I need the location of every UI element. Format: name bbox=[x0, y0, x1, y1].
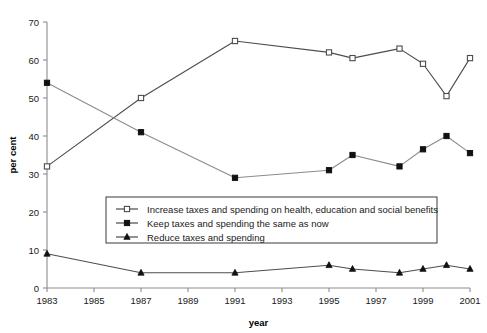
series-line-1 bbox=[47, 41, 470, 166]
y-tick-label: 0 bbox=[34, 283, 39, 294]
data-point-filled-square bbox=[232, 175, 237, 180]
data-point-open-square bbox=[124, 206, 129, 211]
data-point-filled-square bbox=[350, 152, 355, 157]
y-tick-label: 30 bbox=[28, 169, 39, 180]
line-chart: 010203040506070 198319851987198919911993… bbox=[0, 0, 487, 333]
series-2 bbox=[44, 80, 472, 180]
data-point-open-square bbox=[138, 95, 143, 100]
data-point-open-square bbox=[326, 50, 331, 55]
data-point-open-square bbox=[232, 38, 237, 43]
data-point-open-square bbox=[444, 94, 449, 99]
y-tick-label: 40 bbox=[28, 131, 39, 142]
series-line-2 bbox=[47, 83, 470, 178]
y-axis-title: per cent bbox=[7, 136, 18, 174]
chart-canvas: 010203040506070 198319851987198919911993… bbox=[0, 0, 487, 333]
legend-item-label: Keep taxes and spending the same as now bbox=[147, 218, 329, 229]
chart-legend: Increase taxes and spending on health, e… bbox=[106, 197, 438, 243]
data-point-filled-square bbox=[138, 130, 143, 135]
data-point-filled-triangle bbox=[443, 262, 449, 268]
x-tick-label: 1993 bbox=[271, 295, 292, 306]
y-axis: 010203040506070 bbox=[28, 17, 47, 294]
data-point-filled-square bbox=[420, 147, 425, 152]
data-point-filled-square bbox=[467, 151, 472, 156]
x-tick-label: 1987 bbox=[130, 295, 151, 306]
y-tick-label: 10 bbox=[28, 245, 39, 256]
y-tick-label: 20 bbox=[28, 207, 39, 218]
data-point-filled-square bbox=[124, 220, 129, 225]
series-1 bbox=[44, 38, 472, 169]
series-line-3 bbox=[47, 254, 470, 273]
x-tick-label: 1997 bbox=[365, 295, 386, 306]
x-tick-label: 1995 bbox=[318, 295, 339, 306]
legend-item-2[interactable]: Keep taxes and spending the same as now bbox=[116, 218, 329, 229]
data-point-filled-square bbox=[444, 133, 449, 138]
x-tick-label: 1985 bbox=[83, 295, 104, 306]
x-tick-label: 1989 bbox=[177, 295, 198, 306]
series-3 bbox=[44, 250, 473, 275]
y-tick-label: 50 bbox=[28, 93, 39, 104]
data-point-filled-square bbox=[326, 168, 331, 173]
legend-item-label: Reduce taxes and spending bbox=[147, 232, 265, 243]
y-tick-label: 70 bbox=[28, 17, 39, 28]
y-tick-label: 60 bbox=[28, 55, 39, 66]
legend-item-1[interactable]: Increase taxes and spending on health, e… bbox=[116, 204, 438, 215]
data-point-open-square bbox=[44, 164, 49, 169]
data-point-filled-square bbox=[44, 80, 49, 85]
x-tick-label: 1983 bbox=[36, 295, 57, 306]
data-point-filled-triangle bbox=[44, 250, 50, 256]
data-point-open-square bbox=[350, 56, 355, 61]
data-point-open-square bbox=[420, 61, 425, 66]
x-tick-label: 1991 bbox=[224, 295, 245, 306]
data-point-filled-square bbox=[397, 164, 402, 169]
legend-item-label: Increase taxes and spending on health, e… bbox=[147, 204, 438, 215]
x-tick-label: 2001 bbox=[459, 295, 480, 306]
x-tick-label: 1999 bbox=[412, 295, 433, 306]
data-point-open-square bbox=[467, 56, 472, 61]
data-point-filled-triangle bbox=[326, 262, 332, 268]
x-axis: 1983198519871989199119931995199719992001 bbox=[36, 288, 480, 306]
x-axis-title: year bbox=[249, 317, 269, 328]
data-point-open-square bbox=[397, 46, 402, 51]
